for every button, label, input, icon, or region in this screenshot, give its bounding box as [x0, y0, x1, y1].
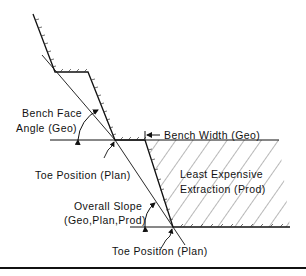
overall-slope-label-2: (Geo,Plan,Prod): [64, 214, 146, 227]
toe-position-upper-label: Toe Position (Plan): [35, 169, 131, 182]
least-expensive-label-2: Extraction (Prod): [180, 183, 266, 196]
bench-face-angle-label-2: Angle (Geo): [16, 122, 77, 135]
bench-face-angle-label: Bench Face: [22, 107, 82, 120]
overall-slope-label: Overall Slope: [74, 200, 142, 213]
toe-pointer-upper: [104, 142, 114, 158]
overall-slope-angle-arc: [145, 203, 155, 227]
least-expensive-label: Least Expensive: [180, 168, 263, 181]
bench-width-label: Bench Width (Geo): [164, 129, 260, 142]
pit-slope-diagram: [0, 0, 306, 276]
toe-position-lower-label: Toe Position (Plan): [112, 245, 208, 258]
